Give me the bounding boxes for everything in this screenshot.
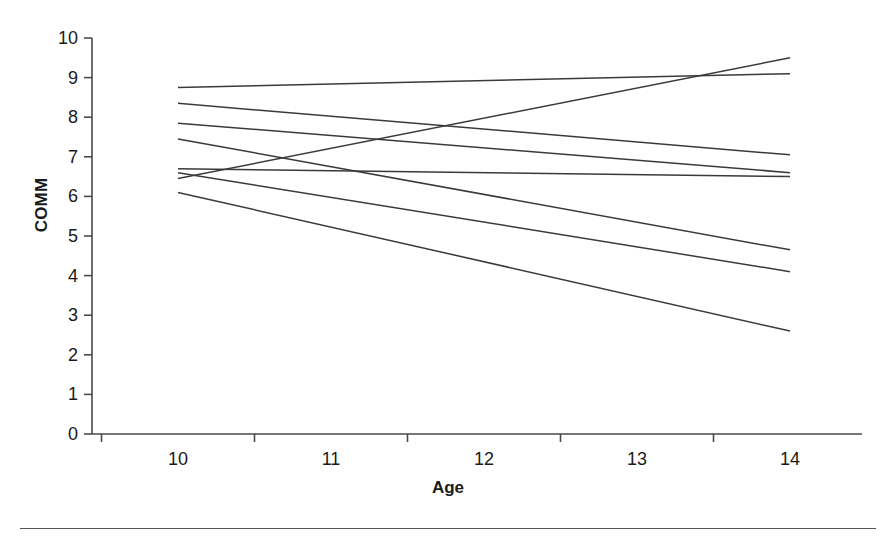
data-line [178, 103, 790, 154]
y-tick-label: 1 [32, 385, 78, 403]
data-line [178, 169, 790, 177]
y-tick-label: 4 [32, 267, 78, 285]
data-lines-group [178, 58, 790, 331]
chart-figure: COMM Age 012345678910 1011121314 [0, 0, 896, 550]
y-tick-label: 5 [32, 227, 78, 245]
axis-group [84, 38, 862, 442]
y-tick-label: 0 [32, 425, 78, 443]
x-tick-label: 10 [148, 450, 208, 468]
y-tick-label: 2 [32, 346, 78, 364]
y-tick-label: 8 [32, 108, 78, 126]
y-tick-label: 10 [32, 29, 78, 47]
y-tick-label: 7 [32, 148, 78, 166]
x-tick-label: 12 [454, 450, 514, 468]
bottom-divider [20, 528, 876, 529]
y-tick-label: 9 [32, 69, 78, 87]
data-line [178, 192, 790, 331]
data-line [178, 123, 790, 173]
data-line [178, 58, 790, 179]
x-axis-title: Age [0, 478, 896, 498]
y-tick-label: 6 [32, 187, 78, 205]
y-tick-label: 3 [32, 306, 78, 324]
data-line [178, 173, 790, 272]
x-tick-label: 13 [607, 450, 667, 468]
data-line [178, 139, 790, 250]
x-tick-label: 11 [301, 450, 361, 468]
x-tick-label: 14 [760, 450, 820, 468]
